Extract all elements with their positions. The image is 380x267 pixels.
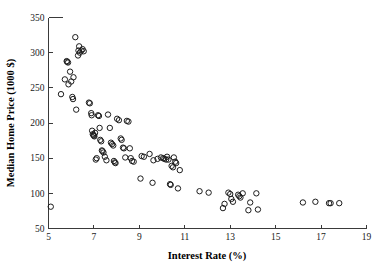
y-axis-title: Median Home Price (1000 $) bbox=[5, 58, 17, 187]
data-point bbox=[206, 190, 211, 195]
data-point bbox=[97, 125, 102, 130]
data-point bbox=[300, 200, 305, 205]
data-point bbox=[246, 208, 251, 213]
data-point bbox=[150, 180, 155, 185]
data-point bbox=[105, 112, 110, 117]
data-point bbox=[67, 69, 72, 74]
y-tick-label: 100 bbox=[30, 189, 45, 199]
y-tick-label: 300 bbox=[30, 48, 45, 58]
data-point bbox=[123, 155, 128, 160]
data-point bbox=[107, 125, 112, 130]
x-tick-label: 11 bbox=[180, 232, 189, 242]
y-tick-label: 50 bbox=[35, 224, 45, 234]
y-tick-label: 150 bbox=[30, 153, 45, 163]
plot-canvas: 5791113151719 50100150200250300350 Inter… bbox=[0, 0, 380, 267]
x-tick-label: 7 bbox=[92, 232, 97, 242]
data-point bbox=[73, 34, 78, 39]
data-point bbox=[313, 199, 318, 204]
data-point bbox=[337, 200, 342, 205]
data-point bbox=[197, 189, 202, 194]
data-point bbox=[147, 151, 152, 156]
data-point bbox=[127, 146, 132, 151]
data-point bbox=[58, 91, 63, 96]
x-tick-label: 9 bbox=[137, 232, 142, 242]
axis-spines bbox=[49, 18, 367, 229]
scatter-plot-figure: 5791113151719 50100150200250300350 Inter… bbox=[0, 0, 380, 267]
data-point bbox=[254, 191, 259, 196]
y-axis-ticks: 50100150200250300350 bbox=[30, 13, 52, 234]
data-point bbox=[138, 176, 143, 181]
y-tick-label: 250 bbox=[30, 83, 45, 93]
x-tick-label: 5 bbox=[46, 232, 51, 242]
x-tick-label: 13 bbox=[225, 232, 235, 242]
data-point bbox=[255, 207, 260, 212]
x-tick-label: 15 bbox=[271, 232, 281, 242]
data-point bbox=[62, 77, 67, 82]
x-tick-label: 17 bbox=[316, 232, 326, 242]
data-point bbox=[71, 75, 76, 80]
x-tick-label: 19 bbox=[362, 232, 372, 242]
x-axis-title: Interest Rate (%) bbox=[168, 250, 247, 262]
data-point bbox=[74, 107, 79, 112]
data-point bbox=[248, 200, 253, 205]
data-point bbox=[175, 186, 180, 191]
data-point bbox=[177, 167, 182, 172]
x-axis-ticks: 5791113151719 bbox=[46, 225, 371, 242]
y-tick-label: 350 bbox=[30, 13, 45, 23]
plot-frame bbox=[49, 18, 367, 229]
y-tick-label: 200 bbox=[30, 118, 45, 128]
data-points-layer bbox=[48, 34, 342, 212]
